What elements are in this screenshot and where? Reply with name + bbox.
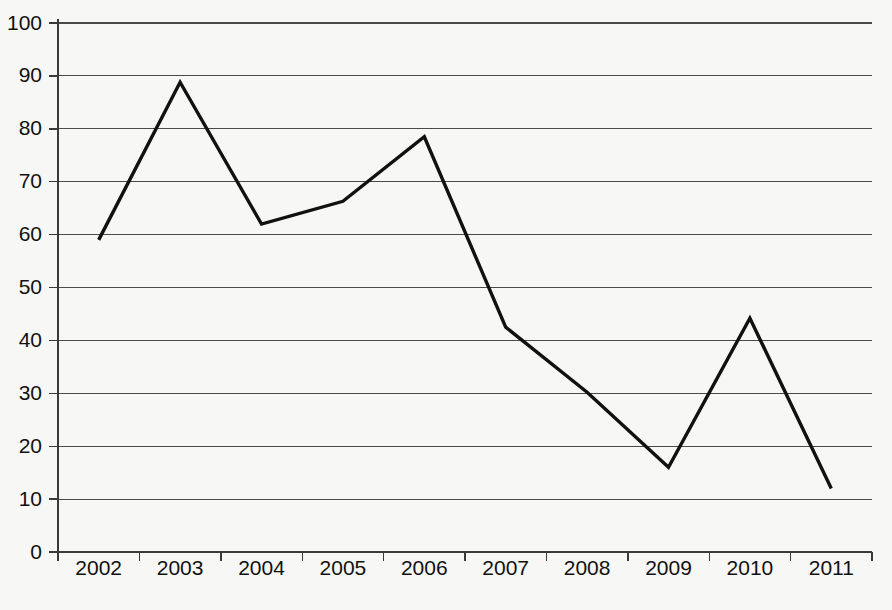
- y-axis-label: 90: [19, 63, 42, 86]
- x-axis-label: 2011: [809, 556, 854, 579]
- x-axis-label: 2007: [482, 556, 529, 579]
- y-axis-label: 40: [19, 328, 42, 351]
- y-axis-label: 100: [7, 11, 42, 34]
- x-axis-label: 2005: [320, 556, 367, 579]
- y-axis-label: 80: [19, 116, 42, 139]
- x-axis-label: 2009: [645, 556, 692, 579]
- y-axis-label: 50: [19, 275, 42, 298]
- chart-canvas: 0102030405060708090100 20022003200420052…: [0, 0, 892, 610]
- y-axis-label: 70: [19, 169, 42, 192]
- x-axis-label: 2010: [727, 556, 774, 579]
- y-axis-label: 30: [19, 381, 42, 404]
- x-axis-label: 2008: [564, 556, 611, 579]
- y-axis-label: 60: [19, 222, 42, 245]
- line-chart: 0102030405060708090100 20022003200420052…: [0, 0, 892, 610]
- y-axis-label: 0: [30, 540, 42, 563]
- y-axis-label: 10: [19, 487, 42, 510]
- y-axis-label: 20: [19, 434, 42, 457]
- x-axis-label: 2003: [157, 556, 204, 579]
- x-axis-label: 2004: [238, 556, 285, 579]
- x-axis-label: 2006: [401, 556, 448, 579]
- chart-background: [0, 0, 892, 610]
- x-axis-label: 2002: [75, 556, 122, 579]
